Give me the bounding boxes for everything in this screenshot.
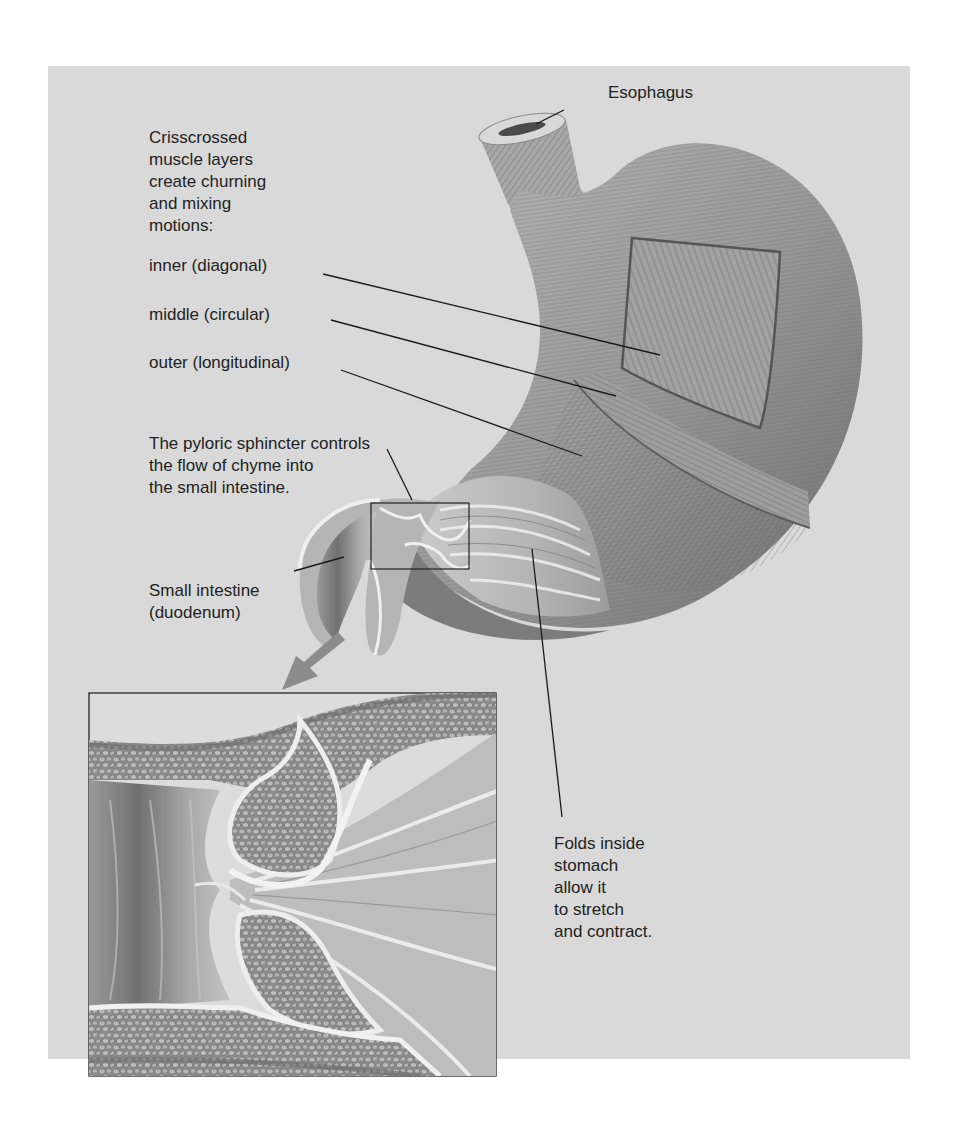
label-outer-longitudinal: outer (longitudinal) (149, 352, 290, 374)
pyloric-sphincter-inset (89, 690, 500, 1076)
label-inner-diagonal: inner (diagonal) (149, 255, 267, 277)
label-middle-circular: middle (circular) (149, 304, 270, 326)
stomach-illustration (0, 0, 956, 1129)
zoom-arrow-icon (282, 632, 345, 690)
label-esophagus: Esophagus (608, 82, 693, 104)
